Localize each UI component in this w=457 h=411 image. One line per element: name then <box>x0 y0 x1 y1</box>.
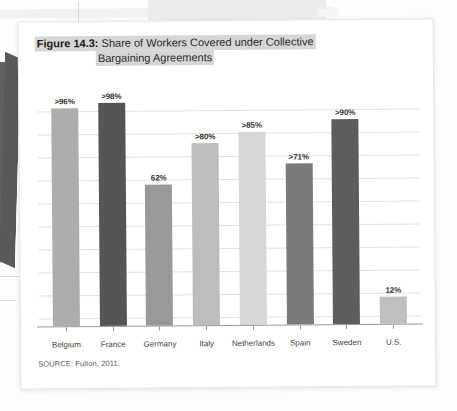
axis-tick <box>66 327 67 331</box>
figure-title-text-1: Share of Workers Covered under Collectiv… <box>98 35 313 49</box>
axis-label-germany: Germany <box>143 339 176 348</box>
tick-slot <box>183 326 230 330</box>
figure-card: Figure 14.3: Share of Workers Covered un… <box>18 18 437 389</box>
bar-value-label: 12% <box>385 285 401 294</box>
bar-spain <box>285 163 313 325</box>
background-tick-mark <box>78 2 79 22</box>
axis-label-us: U.S. <box>386 338 402 347</box>
tick-slot <box>370 325 417 329</box>
bar-value-label: >80% <box>195 132 215 141</box>
axis-label-slot: Belgium <box>43 333 90 351</box>
bar-slot: >85% <box>228 87 277 325</box>
axis-label-slot: Sweden <box>324 331 371 349</box>
bar-germany <box>145 185 173 326</box>
bar-slot: 62% <box>135 87 184 325</box>
axis-label-belgium: Belgium <box>52 340 81 349</box>
bar-france <box>98 103 127 326</box>
tick-slot <box>90 327 137 331</box>
axis-label-sweden: Sweden <box>332 338 361 347</box>
axis-label-france: France <box>101 340 126 349</box>
figure-title-line-2: Bargaining Agreements <box>96 49 375 66</box>
bar-value-label: 62% <box>151 174 167 183</box>
axis-label-slot: U.S. <box>370 331 417 349</box>
bar-value-label: >96% <box>54 97 74 106</box>
bar-slot: >98% <box>88 88 137 326</box>
bar-italy <box>192 143 220 325</box>
bar-sweden <box>332 119 361 324</box>
bar-us <box>380 296 407 323</box>
bar-value-label: >90% <box>335 108 355 117</box>
figure-title: Figure 14.3: Share of Workers Covered un… <box>35 34 375 67</box>
tick-slot <box>230 326 277 330</box>
axis-tick <box>300 325 301 329</box>
background-rule-left-lower <box>0 300 16 301</box>
axis-tick <box>113 327 114 331</box>
background-band-top-right <box>318 9 338 17</box>
axis-label-netherlands: Netherlands <box>232 339 275 348</box>
axis-tick <box>206 326 207 330</box>
axis-tick <box>253 326 254 330</box>
axis-tick <box>346 325 347 329</box>
bar-slot: 12% <box>368 86 417 324</box>
bar-value-label: >85% <box>242 121 262 130</box>
bar-value-label: >71% <box>289 152 309 161</box>
axis-tick <box>159 327 160 331</box>
bar-slot: >90% <box>322 86 371 324</box>
bar-netherlands <box>238 132 267 325</box>
bar-slot: >96% <box>41 88 90 326</box>
tick-slot <box>43 327 90 331</box>
axis-label-slot: Netherlands <box>230 332 277 350</box>
bar-value-label: >98% <box>101 92 121 101</box>
figure-title-text-2: Bargaining Agreements <box>96 50 214 66</box>
tick-slot <box>136 326 183 330</box>
axis-label-slot: France <box>90 333 137 351</box>
source-note: SOURCE: Fulton, 2011. <box>38 359 120 369</box>
tick-slot <box>277 325 324 329</box>
axis-tick <box>393 325 394 329</box>
axis-label-italy: Italy <box>199 339 214 348</box>
bar-slot: >71% <box>275 86 324 324</box>
axis-label-slot: Germany <box>137 332 184 350</box>
x-axis-labels: BelgiumFranceGermanyItalyNetherlandsSpai… <box>39 330 421 351</box>
bar-slot: >80% <box>181 87 230 325</box>
tick-slot <box>323 325 370 329</box>
axis-label-spain: Spain <box>290 338 311 347</box>
bar-series: >96%>98%62%>80%>85%>71%>90%12% <box>37 85 421 326</box>
figure-number: Figure 14.3: <box>37 37 99 49</box>
axis-label-slot: Italy <box>183 332 230 350</box>
plot-area: >96%>98%62%>80%>85%>71%>90%12% <box>37 85 421 326</box>
bar-belgium <box>51 108 80 326</box>
axis-label-slot: Spain <box>277 331 324 349</box>
